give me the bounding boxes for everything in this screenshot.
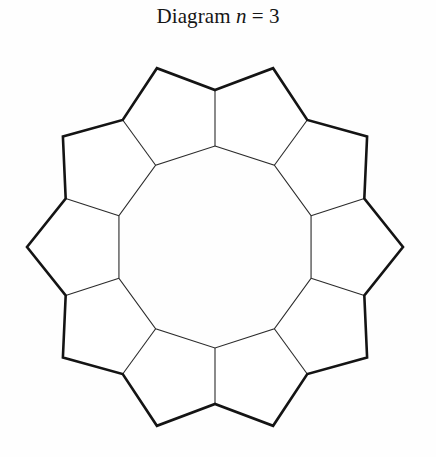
pentagon-tile [311, 198, 403, 295]
inner-decagon-outline [119, 146, 311, 348]
pentagon-ring-svg [0, 0, 436, 457]
pentagon-tile [27, 198, 119, 295]
figure-page: Diagram n = 3 [0, 0, 436, 457]
pentagon-ring-figure [0, 0, 436, 457]
